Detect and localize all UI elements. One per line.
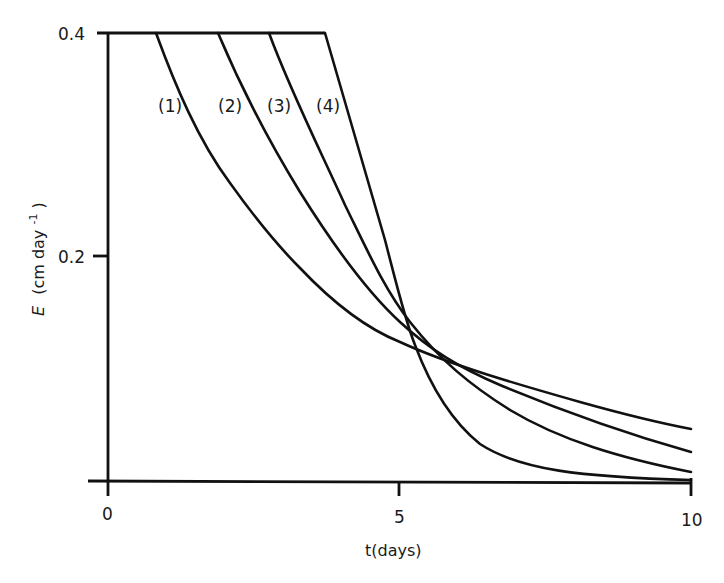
x-axis-title: t(days) — [365, 541, 422, 560]
curve-label-2: (2) — [218, 96, 242, 116]
curve-1 — [156, 33, 691, 429]
y-axis-title: E (cm day -1 ) — [22, 202, 48, 316]
curve-label-3: (3) — [267, 96, 291, 116]
y-axis-title-symbol: E — [29, 305, 48, 316]
x-tick-label-10: 10 — [681, 510, 703, 530]
x-tick-label-5: 5 — [394, 507, 405, 527]
y-tick-label-0-2: 0.2 — [58, 247, 85, 267]
svg-text:E (cm day -1: E (cm day -1 ) — [22, 202, 48, 316]
x-tick-label-0: 0 — [102, 504, 113, 524]
y-tick-label-0-4: 0.4 — [58, 24, 85, 44]
y-axis-title-unit: (cm day — [29, 230, 48, 295]
y-axis-title-close: ) — [29, 202, 48, 208]
curve-4 — [325, 33, 691, 480]
chart-canvas: 0.4 0.2 0 5 10 t(days) E (cm day -1 ) (1… — [0, 0, 724, 583]
y-axis-title-exponent: -1 — [27, 214, 40, 225]
curve-label-4: (4) — [316, 96, 340, 116]
curve-label-1: (1) — [158, 96, 182, 116]
x-axis — [88, 481, 692, 483]
